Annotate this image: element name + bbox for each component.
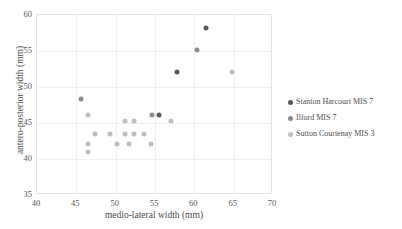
data-point xyxy=(85,141,90,146)
gridline-vertical xyxy=(76,15,77,193)
data-point xyxy=(141,132,146,137)
x-axis-title: medio-lateral width (mm) xyxy=(36,210,272,220)
legend-marker-icon xyxy=(288,132,293,137)
data-point xyxy=(132,132,137,137)
legend-item-label: Sutton Courtenay MIS 3 xyxy=(296,130,374,138)
x-tick-label: 50 xyxy=(103,198,127,208)
legend-marker-icon xyxy=(288,100,293,105)
gridline-vertical xyxy=(234,15,235,193)
gridline-vertical xyxy=(194,15,195,193)
plot-area xyxy=(36,14,272,194)
data-point xyxy=(115,141,120,146)
legend-item[interactable]: Ilford MIS 7 xyxy=(288,110,374,126)
data-point xyxy=(148,141,153,146)
x-tick-label: 65 xyxy=(221,198,245,208)
data-point xyxy=(156,112,161,117)
data-point xyxy=(169,118,174,123)
data-point xyxy=(174,69,179,74)
gridline-vertical xyxy=(155,15,156,193)
clipped-chart-title xyxy=(60,0,260,4)
legend-item[interactable]: Stanton Harcourt MIS 7 xyxy=(288,94,374,110)
legend-item[interactable]: Sutton Courtenay MIS 3 xyxy=(288,126,374,142)
chart-canvas: 35404550556040455055606570 medio-lateral… xyxy=(0,0,402,229)
gridline-horizontal xyxy=(37,123,271,124)
data-point xyxy=(122,118,127,123)
x-tick-label: 55 xyxy=(142,198,166,208)
y-axis-title: antero-posterior width (mm) xyxy=(15,20,25,180)
gridline-vertical xyxy=(116,15,117,193)
data-point xyxy=(132,118,137,123)
gridline-horizontal xyxy=(37,51,271,52)
data-point xyxy=(126,141,131,146)
data-point xyxy=(85,150,90,155)
x-tick-label: 40 xyxy=(24,198,48,208)
data-point xyxy=(203,26,208,31)
data-point xyxy=(107,132,112,137)
data-point xyxy=(150,112,155,117)
gridline-horizontal xyxy=(37,159,271,160)
legend-item-label: Stanton Harcourt MIS 7 xyxy=(296,98,373,106)
x-tick-label: 45 xyxy=(63,198,87,208)
legend-item-label: Ilford MIS 7 xyxy=(296,114,336,122)
x-tick-label: 70 xyxy=(260,198,284,208)
legend: Stanton Harcourt MIS 7Ilford MIS 7Sutton… xyxy=(288,94,374,142)
data-point xyxy=(229,69,234,74)
data-point xyxy=(93,132,98,137)
x-tick-label: 60 xyxy=(181,198,205,208)
data-point xyxy=(122,132,127,137)
data-point xyxy=(78,96,83,101)
legend-marker-icon xyxy=(288,116,293,121)
data-point xyxy=(85,112,90,117)
y-tick-label: 60 xyxy=(6,9,32,19)
data-point xyxy=(195,48,200,53)
gridline-horizontal xyxy=(37,87,271,88)
